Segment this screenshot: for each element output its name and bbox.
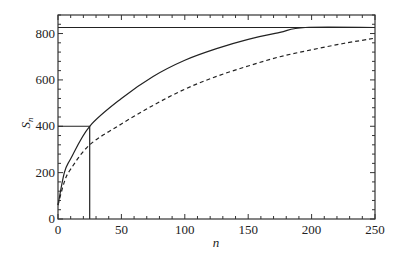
axis-ticks [58, 15, 375, 219]
y-tick-label: 200 [36, 165, 56, 180]
series-line-0 [58, 27, 375, 205]
plot-frame [58, 15, 375, 219]
series-line-1 [58, 38, 375, 205]
y-axis-label: Sn [18, 117, 35, 129]
y-tick-label: 600 [36, 72, 56, 87]
x-tick-label: 100 [175, 222, 195, 237]
y-tick-label: 800 [36, 26, 56, 41]
x-tick-label: 0 [55, 222, 62, 237]
tick-labels: 0501001502002500200400600800 [36, 26, 385, 237]
y-tick-label: 400 [36, 118, 56, 133]
x-tick-label: 250 [365, 222, 385, 237]
data-series [58, 27, 375, 219]
x-axis-label: n [213, 235, 220, 250]
y-tick-label: 0 [49, 211, 56, 226]
x-tick-label: 200 [302, 222, 322, 237]
x-tick-label: 50 [115, 222, 128, 237]
chart: 0501001502002500200400600800 n Sn [0, 0, 407, 254]
x-tick-label: 150 [238, 222, 258, 237]
